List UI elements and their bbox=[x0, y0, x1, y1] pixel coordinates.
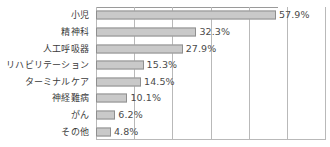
value-label: 57.9% bbox=[279, 10, 310, 20]
bar-row: 精神科32.3% bbox=[96, 24, 326, 41]
bar bbox=[96, 44, 183, 53]
bar-rows: 小児57.9%精神科32.3%人工呼吸器27.9%リハビリテーション15.3%タ… bbox=[96, 7, 326, 140]
value-label: 10.1% bbox=[130, 93, 161, 103]
value-label: 6.2% bbox=[118, 110, 143, 120]
value-label: 4.8% bbox=[114, 127, 139, 137]
category-label: がん bbox=[71, 110, 89, 120]
category-label: リハビリテーション bbox=[6, 60, 89, 70]
category-label: ターミナルケア bbox=[25, 77, 89, 87]
value-label: 27.9% bbox=[186, 44, 217, 54]
bar-row: 人工呼吸器27.9% bbox=[96, 40, 326, 57]
bar bbox=[96, 61, 144, 70]
bar bbox=[96, 111, 115, 120]
value-label: 32.3% bbox=[199, 27, 230, 37]
bar bbox=[96, 11, 276, 20]
bar-row: 神経難病10.1% bbox=[96, 90, 326, 107]
bar bbox=[96, 127, 111, 136]
value-label: 14.5% bbox=[144, 77, 175, 87]
category-label: 人工呼吸器 bbox=[43, 44, 89, 54]
bar bbox=[96, 77, 141, 86]
bar bbox=[96, 27, 196, 36]
bar bbox=[96, 94, 127, 103]
bar-row: その他4.8% bbox=[96, 123, 326, 140]
category-label: 神経難病 bbox=[52, 93, 89, 103]
bar-chart: 小児57.9%精神科32.3%人工呼吸器27.9%リハビリテーション15.3%タ… bbox=[0, 0, 330, 147]
plot-area: 小児57.9%精神科32.3%人工呼吸器27.9%リハビリテーション15.3%タ… bbox=[96, 7, 326, 140]
bar-row: リハビリテーション15.3% bbox=[96, 57, 326, 74]
bar-row: ターミナルケア14.5% bbox=[96, 74, 326, 91]
bar-row: がん6.2% bbox=[96, 107, 326, 124]
bar-row: 小児57.9% bbox=[96, 7, 326, 24]
category-label: その他 bbox=[61, 127, 89, 137]
category-label: 小児 bbox=[71, 10, 89, 20]
value-label: 15.3% bbox=[147, 60, 178, 70]
category-label: 精神科 bbox=[61, 27, 89, 37]
